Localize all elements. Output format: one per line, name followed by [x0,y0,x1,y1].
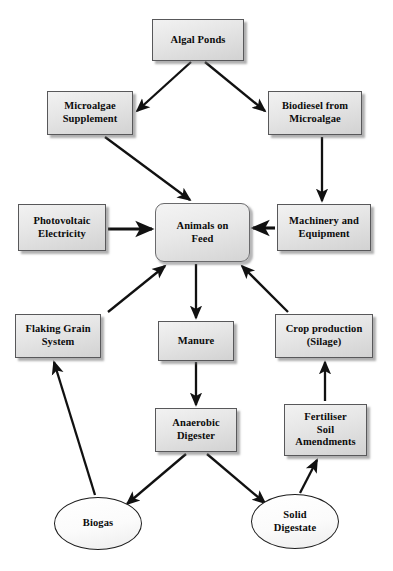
node-machinery-and-equipment[interactable]: Machinery and Equipment [277,204,371,251]
edge-crop-production-to-animals [242,266,288,312]
node-microalgae-supplement-label: Microalgae Supplement [61,100,120,126]
node-algal-ponds-label: Algal Ponds [168,34,227,47]
node-anaerobic-digester-label: Anaerobic Digester [170,417,221,443]
edge-biogas-to-flaking-grain [54,362,95,495]
node-anaerobic-digester[interactable]: Anaerobic Digester [155,408,237,452]
node-microalgae-supplement[interactable]: Microalgae Supplement [47,91,133,135]
node-biodiesel-from-microalgae-label: Biodiesel from Microalgae [280,100,350,126]
node-photovoltaic-electricity[interactable]: Photovoltaic Electricity [18,204,106,251]
node-manure-label: Manure [176,335,217,348]
node-flaking-grain-system-label: Flaking Grain System [23,323,92,349]
node-crop-production-silage-label: Crop production (Silage) [284,323,365,349]
node-fertiliser-soil-amendments[interactable]: Fertiliser Soil Amendments [284,404,367,456]
node-animals-on-feed-label: Animals on Feed [174,220,230,246]
node-photovoltaic-electricity-label: Photovoltaic Electricity [31,215,92,241]
flow-diagram: Algal Ponds Microalgae Supplement Biodie… [0,0,393,571]
edge-solid-digestate-to-fertiliser [300,460,317,493]
edge-algal-ponds-to-microalgae-supplement [137,62,191,111]
node-solid-digestate[interactable]: Solid Digestate [251,494,339,549]
node-fertiliser-soil-amendments-label: Fertiliser Soil Amendments [293,411,358,449]
edge-anaerobic-digester-to-biogas [127,454,186,504]
node-biogas-label: Biogas [81,517,115,530]
node-crop-production-silage[interactable]: Crop production (Silage) [275,314,373,358]
edge-layer [0,0,393,571]
node-biodiesel-from-microalgae[interactable]: Biodiesel from Microalgae [268,91,362,135]
node-animals-on-feed[interactable]: Animals on Feed [155,203,250,262]
node-manure[interactable]: Manure [158,321,234,361]
node-machinery-and-equipment-label: Machinery and Equipment [287,215,361,241]
node-solid-digestate-label: Solid Digestate [272,509,318,535]
edge-microalgae-supplement-to-animals [105,137,190,200]
node-flaking-grain-system[interactable]: Flaking Grain System [15,314,101,358]
edge-anaerobic-digester-to-solid-digestate [207,454,265,503]
node-biogas[interactable]: Biogas [54,497,142,550]
node-algal-ponds[interactable]: Algal Ponds [152,19,244,61]
edge-flaking-grain-to-animals [108,266,165,312]
edge-algal-ponds-to-biodiesel [205,62,265,111]
